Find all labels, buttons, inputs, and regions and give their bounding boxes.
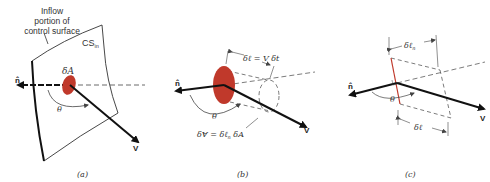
volume-leader xyxy=(246,118,258,128)
inflow-edge xyxy=(32,61,44,161)
velocity-vector-arrow xyxy=(70,85,138,142)
dim-tick-left xyxy=(226,51,228,64)
velocity-vector-arrow-c xyxy=(397,83,484,109)
dim-line-bottom-right xyxy=(432,128,446,132)
velocity-label-c: V xyxy=(480,114,486,123)
velocity-label-b: V xyxy=(304,126,310,135)
dim-line-bottom-left xyxy=(400,119,410,123)
dim-tick-top-right xyxy=(436,35,438,67)
inflow-label-line1: Inflow xyxy=(41,6,64,16)
normal-length-label: δℓn xyxy=(404,41,415,51)
theta-label-c: θ xyxy=(390,95,395,104)
dashed-reference-line-b xyxy=(226,72,315,85)
panel-c: δℓn δℓ n̂ θ V (c) xyxy=(348,35,486,179)
caption-c: (c) xyxy=(405,170,416,179)
inflow-label-line3: control surface xyxy=(24,26,80,36)
dim-tick-right xyxy=(270,66,274,78)
control-surface-diagram: Inflow portion of control surface CSin δ… xyxy=(0,0,490,182)
normal-label-c: n̂ xyxy=(348,82,353,91)
normal-label-b: n̂ xyxy=(175,79,180,88)
panel-b: δℓ = V δt n̂ θ δⱯ = δℓn δA V (b) xyxy=(175,51,315,179)
volume-eq-label: δⱯ = δℓn δA xyxy=(197,130,244,140)
caption-b: (b) xyxy=(237,170,248,179)
panel-a: Inflow portion of control surface CSin δ… xyxy=(15,6,145,179)
caption-a: (a) xyxy=(77,170,88,179)
theta-label-b: θ xyxy=(212,112,217,121)
theta-label: θ xyxy=(57,105,62,114)
para-bottom xyxy=(400,104,451,118)
length-eq-label: δℓ = V δt xyxy=(243,54,280,63)
inflow-label-line2: portion of xyxy=(34,16,70,26)
dashed-reference-line-c xyxy=(397,62,485,83)
dim-line-top-right xyxy=(424,40,435,42)
control-surface-outline xyxy=(32,25,118,161)
normal-label: n̂ xyxy=(15,76,20,85)
para-top xyxy=(391,58,440,70)
length-label-c: δℓ xyxy=(414,123,423,132)
velocity-label: V xyxy=(133,144,139,153)
para-right xyxy=(440,70,451,118)
dim-line-top-left xyxy=(391,46,402,49)
area-label: δA xyxy=(62,66,74,76)
area-element xyxy=(60,74,78,97)
cs-label: CSin xyxy=(82,38,99,49)
